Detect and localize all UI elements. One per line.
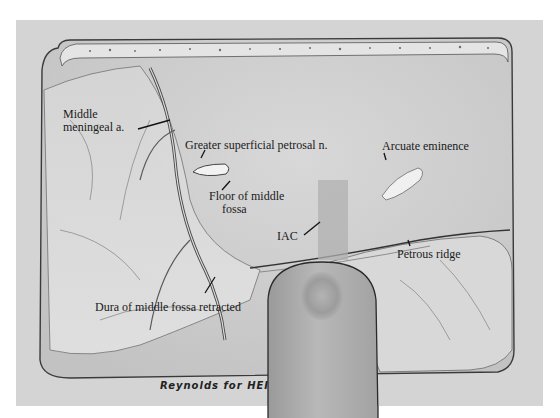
artist-signature: Reynolds for HEI (160, 380, 269, 391)
illustration: Middle meningeal a. Greater superficial … (0, 0, 560, 418)
label-petrous-ridge: Petrous ridge (397, 248, 461, 260)
retractor-tip (300, 272, 344, 320)
anatomy-drawing (0, 0, 560, 418)
label-floor-line2: fossa (222, 203, 247, 215)
label-greater-superficial-petrosal: Greater superficial petrosal n. (185, 139, 328, 151)
label-floor-line1: Floor of middle (209, 190, 284, 202)
label-arcuate-eminence: Arcuate eminence (382, 140, 469, 152)
label-iac: IAC (277, 230, 298, 242)
label-middle-meningeal-line1: Middle (63, 108, 98, 120)
label-dura-retracted: Dura of middle fossa retracted (95, 301, 241, 313)
label-middle-meningeal-line2: meningeal a. (63, 121, 124, 133)
iac-marker (318, 180, 348, 260)
